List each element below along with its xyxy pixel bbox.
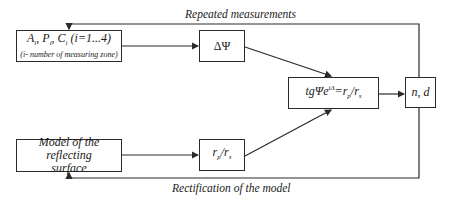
repeated-measurements-label: Repeated measurements xyxy=(185,8,296,20)
model-box: Model of the reflecting surface xyxy=(16,139,122,172)
model-line1: Model of the reflecting xyxy=(17,136,121,162)
delta-psi-box: ΔΨ xyxy=(199,30,245,62)
equation-box: tgΨeiΔ=rp/rs xyxy=(288,77,379,109)
measuring-zone-note: (i- number of measuring zone) xyxy=(20,50,117,60)
output-text: n, d xyxy=(412,86,430,99)
ratio-text: rp/rs xyxy=(213,146,232,164)
rectification-label: Rectification of the model xyxy=(172,182,290,194)
input-parameters-box: Ai, Pi, Ci (i=1...4) (i- number of measu… xyxy=(16,30,122,62)
ratio-box: rp/rs xyxy=(199,139,245,171)
input-parameters-text: Ai, Pi, Ci (i=1...4) xyxy=(27,32,111,50)
equation-text: tgΨeiΔ=rp/rs xyxy=(305,82,361,103)
output-box: n, d xyxy=(405,77,436,108)
delta-psi-text: ΔΨ xyxy=(214,40,231,53)
model-line2: surface xyxy=(51,162,86,175)
